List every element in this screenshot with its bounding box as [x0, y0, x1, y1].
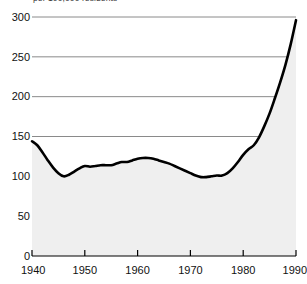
x-tick-label-1970: 1970	[178, 265, 202, 276]
x-tick-label-1980: 1980	[231, 265, 255, 276]
area-fill	[32, 20, 296, 256]
x-tick-label-1950: 1950	[73, 265, 97, 276]
x-tick-label-1960: 1960	[125, 265, 149, 276]
x-tick-label-1990: 1990	[283, 265, 307, 276]
x-tick-label-1940: 1940	[21, 265, 45, 276]
chart-container: per 100,000 residents 300 250 200 150 10…	[0, 0, 307, 284]
chart-plot-area	[0, 0, 307, 284]
